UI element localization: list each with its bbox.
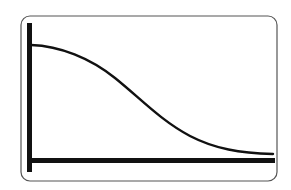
decreasing-curve [31,45,273,154]
sigmoid-graph-diagram [0,0,291,190]
frame-border [21,16,277,181]
